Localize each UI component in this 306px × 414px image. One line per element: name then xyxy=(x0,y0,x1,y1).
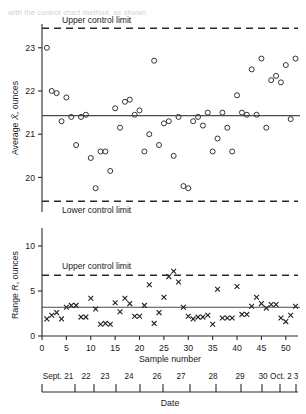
r-data-point xyxy=(44,317,49,322)
xbar-y-tick-label: 21 xyxy=(25,129,35,139)
r-axis-title: Range R, ounces xyxy=(10,250,20,319)
r-data-point xyxy=(279,316,284,321)
xbar-chart: 23222120 Upper control limit Lower contr… xyxy=(10,15,300,215)
r-data-point xyxy=(127,301,132,306)
sample-axis-tick-label: 50 xyxy=(281,343,291,353)
date-axis-label: 30 xyxy=(258,372,268,381)
xbar-data-point xyxy=(157,143,162,148)
date-axis-label: 28 xyxy=(208,372,218,381)
r-data-points xyxy=(44,269,297,327)
xbar-data-point xyxy=(171,153,176,158)
r-data-point xyxy=(191,317,196,322)
r-data-point xyxy=(288,313,293,318)
xbar-data-point xyxy=(103,149,108,154)
date-axis-label: 3 xyxy=(294,372,299,381)
xbar-data-point xyxy=(166,119,171,124)
control-chart-figure: 23222120 Upper control limit Lower contr… xyxy=(0,0,306,414)
xbar-data-point xyxy=(59,119,64,124)
xbar-data-point xyxy=(235,93,240,98)
sample-axis-tick-label: 20 xyxy=(135,343,145,353)
r-data-point xyxy=(49,313,54,318)
xbar-data-point xyxy=(244,112,249,117)
r-y-ticklabels: 1050 xyxy=(25,241,35,341)
date-axis-label: Sept. 21 xyxy=(43,372,74,381)
date-axis-label: 29 xyxy=(235,372,245,381)
r-data-point xyxy=(137,314,142,319)
xbar-data-point xyxy=(205,110,210,115)
xbar-data-point xyxy=(152,58,157,63)
date-axis-labels: Sept. 212223242627282930Oct. 23 xyxy=(43,372,299,381)
date-axis-label: 23 xyxy=(100,372,110,381)
r-data-point xyxy=(79,315,84,320)
xbar-y-tick-label: 20 xyxy=(25,173,35,183)
sample-axis-tick-label: 25 xyxy=(159,343,169,353)
xbar-data-point xyxy=(127,97,132,102)
date-axis-label: 26 xyxy=(152,372,162,381)
date-axis-label: 22 xyxy=(81,372,91,381)
xbar-data-points xyxy=(44,45,298,190)
xbar-data-point xyxy=(283,63,288,68)
r-data-point xyxy=(186,314,191,319)
r-data-point xyxy=(293,304,298,309)
r-data-point xyxy=(201,315,206,320)
sample-axis-tick-label: 15 xyxy=(110,343,120,353)
r-upper-limit-label: Upper control limit xyxy=(62,261,132,271)
xbar-lower-limit-label: Lower control limit xyxy=(62,205,132,215)
xbar-data-point xyxy=(49,88,54,93)
r-y-tick-label: 5 xyxy=(30,286,35,296)
xbar-data-point xyxy=(118,125,123,130)
sample-axis-ticklabels: 05101520253035404550 xyxy=(40,343,291,353)
r-data-point xyxy=(210,322,215,327)
r-data-point xyxy=(103,321,108,326)
xbar-data-point xyxy=(220,110,225,115)
r-data-point xyxy=(132,314,137,319)
r-data-point xyxy=(54,310,59,315)
r-data-point xyxy=(230,316,235,321)
xbar-data-point xyxy=(113,106,118,111)
r-y-tick-label: 10 xyxy=(25,241,35,251)
xbar-data-point xyxy=(215,136,220,141)
date-axis-title: Date xyxy=(161,398,180,408)
r-data-point xyxy=(88,296,93,301)
xbar-data-point xyxy=(132,112,137,117)
xbar-data-point xyxy=(293,56,298,61)
r-data-point xyxy=(225,316,230,321)
r-data-point xyxy=(59,317,64,322)
date-axis-label: 27 xyxy=(176,372,186,381)
xbar-data-point xyxy=(259,56,264,61)
r-data-point xyxy=(83,315,88,320)
sample-axis-tick-label: 45 xyxy=(257,343,267,353)
r-data-point xyxy=(215,287,220,292)
r-y-tick-label: 0 xyxy=(30,331,35,341)
xbar-data-point xyxy=(288,117,293,122)
xbar-data-point xyxy=(186,186,191,191)
xbar-data-point xyxy=(98,149,103,154)
xbar-data-point xyxy=(83,112,88,117)
sample-axis-tick-label: 5 xyxy=(64,343,69,353)
xbar-data-point xyxy=(210,149,215,154)
xbar-data-point xyxy=(264,125,269,130)
r-data-point xyxy=(269,302,274,307)
xbar-data-point xyxy=(108,168,113,173)
sample-axis-tick-label: 40 xyxy=(232,343,242,353)
r-data-point xyxy=(196,315,201,320)
date-axis-label: 24 xyxy=(124,372,134,381)
r-data-point xyxy=(205,313,210,318)
r-data-point xyxy=(113,300,118,305)
xbar-data-point xyxy=(93,186,98,191)
xbar-data-point xyxy=(181,184,186,189)
xbar-data-point xyxy=(137,108,142,113)
xbar-data-point xyxy=(274,73,279,78)
sample-axis-tick-label: 0 xyxy=(40,343,45,353)
xbar-data-point xyxy=(278,80,283,85)
xbar-data-point xyxy=(161,121,166,126)
xbar-data-point xyxy=(254,112,259,117)
xbar-y-ticks xyxy=(38,48,42,178)
sample-axis-tick-label: 10 xyxy=(86,343,96,353)
r-data-point xyxy=(118,309,123,314)
xbar-y-ticklabels: 23222120 xyxy=(25,43,35,183)
xbar-y-tick-label: 23 xyxy=(25,43,35,53)
xbar-data-point xyxy=(239,110,244,115)
figure-caption-faint: with the control chart method, as shown xyxy=(8,1,300,19)
r-data-point xyxy=(244,312,249,317)
